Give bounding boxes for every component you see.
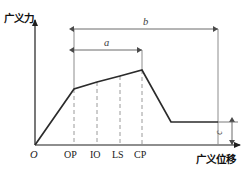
x-axis-title: 广义位移 <box>196 154 236 165</box>
origin-label: O <box>30 150 38 161</box>
generalized-force-displacement-figure: 广义力 广义位移 O OP IO LS CP a b c <box>0 0 251 171</box>
figure-canvas <box>0 0 251 171</box>
dimension-label-b: b <box>143 17 148 28</box>
dashed-droplines-group <box>74 70 142 145</box>
x-tick-label-cp: CP <box>134 150 146 160</box>
dimension-label-a: a <box>104 38 109 49</box>
y-axis-title: 广义力 <box>4 13 34 24</box>
x-tick-label-io: IO <box>90 150 101 160</box>
backbone-curve-group <box>35 70 218 145</box>
guide-lines-group <box>74 29 218 145</box>
x-tick-label-ls: LS <box>112 150 124 160</box>
dimension-label-c: c <box>215 131 225 135</box>
backbone-curve <box>35 70 218 145</box>
axes-group <box>35 20 240 145</box>
x-tick-label-op: OP <box>64 150 77 160</box>
